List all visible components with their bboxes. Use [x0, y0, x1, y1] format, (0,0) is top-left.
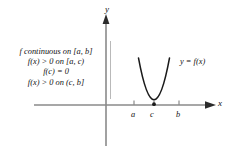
parabola-curve: [139, 58, 170, 100]
function-graph-figure: f continuous on [a, b] f(x) > 0 on [a, c…: [0, 0, 230, 155]
tick-label-b: b: [176, 110, 180, 119]
x-axis-label: x: [218, 98, 222, 108]
condition-line-4: f(x) > 0 on (c, b]: [6, 78, 106, 88]
curve-label: y = f(x): [180, 57, 205, 66]
x-axis-arrowhead: [205, 101, 216, 109]
y-axis-arrowhead: [103, 14, 110, 24]
condition-line-1: f continuous on [a, b]: [6, 47, 106, 57]
condition-line-3: f(c) = 0: [6, 67, 106, 77]
tick-label-a: a: [131, 110, 135, 119]
condition-line-2: f(x) > 0 on [a, c): [6, 57, 106, 67]
tick-label-c: c: [150, 110, 154, 119]
y-axis-label: y: [105, 4, 109, 14]
vertex-point-c: [152, 102, 156, 106]
conditions-text-block: f continuous on [a, b] f(x) > 0 on [a, c…: [6, 47, 106, 88]
